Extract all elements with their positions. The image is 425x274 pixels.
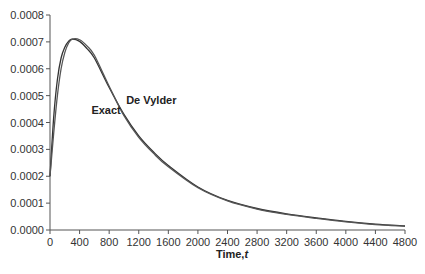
annotation-exact: Exact <box>91 104 121 116</box>
y-tick-label: 0.0002 <box>10 170 44 182</box>
x-axis-title: Time,t <box>216 248 250 260</box>
y-tick-label: 0.0004 <box>10 117 44 129</box>
x-tick-label: 2800 <box>245 236 269 248</box>
y-tick-label: 0.0008 <box>10 9 44 21</box>
y-tick-label: 0.0007 <box>10 36 44 48</box>
annotation-de-vylder: De Vylder <box>126 94 177 106</box>
y-tick-label: 0.0001 <box>10 197 44 209</box>
x-tick-label: 4400 <box>363 236 387 248</box>
line-chart: 0.00000.00010.00020.00030.00040.00050.00… <box>0 0 425 274</box>
x-tick-label: 0 <box>47 236 53 248</box>
series-line-exact <box>50 39 405 226</box>
y-axis: 0.00000.00010.00020.00030.00040.00050.00… <box>10 9 50 236</box>
y-tick-label: 0.0000 <box>10 224 44 236</box>
x-tick-label: 2000 <box>186 236 210 248</box>
x-tick-label: 4000 <box>334 236 358 248</box>
y-tick-label: 0.0006 <box>10 63 44 75</box>
x-axis: 0400800120016002000240028003200360040004… <box>47 230 417 248</box>
y-tick-label: 0.0003 <box>10 143 44 155</box>
series-line-de-vylder <box>50 39 405 226</box>
annotations: ExactDe Vylder <box>91 94 177 117</box>
y-tick-label: 0.0005 <box>10 90 44 102</box>
x-tick-label: 3600 <box>304 236 328 248</box>
x-tick-label: 3200 <box>274 236 298 248</box>
series-layer <box>50 39 405 226</box>
x-tick-label: 800 <box>100 236 118 248</box>
x-tick-label: 2400 <box>215 236 239 248</box>
x-tick-label: 4800 <box>393 236 417 248</box>
x-tick-label: 1200 <box>127 236 151 248</box>
x-tick-label: 1600 <box>156 236 180 248</box>
x-tick-label: 400 <box>70 236 88 248</box>
